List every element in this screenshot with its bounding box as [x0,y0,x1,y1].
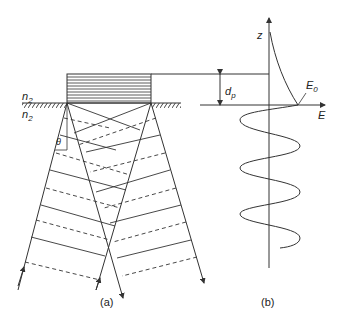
panel-b-drawing [200,18,325,268]
input-arrow-left [18,267,24,286]
e0-label: E0 [306,80,318,94]
interface-hatch-right [151,103,181,108]
theta-label: θ [56,138,61,147]
beam-right-inner [96,103,151,290]
block-stripes [67,77,151,101]
n2-top-label: n2 [22,91,33,105]
caption-b: (b) [261,297,274,308]
dp-label: dp [225,86,236,100]
input-arrow-right [96,278,100,290]
caption-a: (a) [100,297,113,308]
figure: n2 n2 θ (a) z E dp E0 (b) [0,0,337,322]
coupler-block [67,74,151,103]
n2-bottom-label: n2 [22,109,33,123]
e0-leader [298,93,306,105]
e-axis-label: E [318,110,325,121]
diagram-drawing [0,0,337,322]
z-axis-label: z [257,30,263,41]
panel-a-drawing [18,74,269,298]
oscillating-field [240,105,300,248]
evanescent-curve [270,32,298,105]
